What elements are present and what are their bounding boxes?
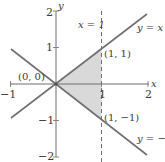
y-tick-label-1: 1 xyxy=(46,41,53,54)
x-tick-label-1: 1 xyxy=(99,88,106,101)
x-tick-label-2: 2 xyxy=(145,88,152,101)
region-diagram: y x −1 1 2 2 1 −1 −2 x = 1 y = x y = −x … xyxy=(0,0,165,162)
origin-point xyxy=(54,82,57,85)
label-point-1-neg1: (1, −1) xyxy=(104,112,139,123)
y-tick-label-2: 2 xyxy=(46,6,53,19)
label-y-equals-x: y = x xyxy=(136,22,163,33)
label-point-1-1: (1, 1) xyxy=(104,48,131,59)
y-tick-label-neg2: −2 xyxy=(38,150,54,162)
y-axis-label: y xyxy=(57,0,64,11)
label-point-origin: (0, 0) xyxy=(18,71,45,82)
y-tick-label-neg1: −1 xyxy=(38,114,54,127)
label-y-equals-neg-x: y = −x xyxy=(136,133,165,144)
label-x-equals-1: x = 1 xyxy=(78,19,105,30)
x-tick-label-neg1: −1 xyxy=(0,88,16,101)
